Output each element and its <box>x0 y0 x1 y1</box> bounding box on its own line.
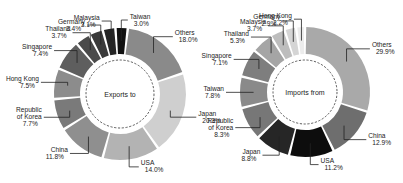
slice-label-taiwan: Taiwan7.8% <box>203 85 224 99</box>
slice-label-republic-of-korea: Republicof Korea8.3% <box>208 117 234 138</box>
slice-label-singapore: Singapore7.1% <box>202 52 232 66</box>
slice-label-singapore: Singapore7.4% <box>22 43 52 57</box>
donut-charts: Taiwan3.0%Others18.0%Japan20.3%USA14.0%C… <box>0 0 403 183</box>
slice-label-others: Others18.0% <box>175 29 198 43</box>
slice-label-china: China11.8% <box>46 146 69 160</box>
center-label: Exports to <box>104 91 136 99</box>
slice-label-hong-kong: Hong Kong7.5% <box>6 75 39 89</box>
center-label: Imports from <box>285 89 324 97</box>
chart-figure: Taiwan3.0%Others18.0%Japan20.3%USA14.0%C… <box>0 0 403 183</box>
slice-label-taiwan: Taiwan3.0% <box>130 13 151 27</box>
slice-label-republic-of-korea: Republicof Korea7.7% <box>16 106 42 127</box>
slice-label-china: China12.9% <box>368 132 391 146</box>
donut-chart-imports: Others29.9%China12.9%USA11.2%Japan8.8%Re… <box>202 12 395 171</box>
slice-label-others: Others29.9% <box>372 41 395 55</box>
slice-label-usa: USA14.0% <box>141 159 164 173</box>
slice-label-japan: Japan8.8% <box>241 148 260 162</box>
slice-label-thailand: Thailand5.3% <box>224 30 250 44</box>
donut-chart-exports: Taiwan3.0%Others18.0%Japan20.3%USA14.0%C… <box>6 13 221 174</box>
slice-label-usa: USA11.2% <box>321 157 343 171</box>
